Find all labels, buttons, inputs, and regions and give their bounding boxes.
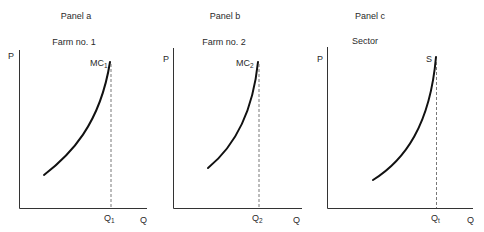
panel-a-q-label: Q1	[104, 213, 115, 224]
panel-a-title: Panel a	[61, 11, 92, 21]
panel-c-y-axis-label: P	[317, 54, 323, 64]
panel-b-q-label: Q2	[252, 213, 263, 224]
diagram-canvas: Panel a Farm no. 1 P MC1 Q1 Q Panel b Fa…	[0, 0, 484, 232]
panel-a-mc-curve	[44, 62, 110, 175]
panel-a-y-axis-label: P	[8, 51, 14, 61]
panel-c-supply-curve	[373, 57, 436, 180]
panel-b: Panel b Farm no. 2 P MC2 Q2 Q	[163, 11, 302, 225]
panel-a: Panel a Farm no. 1 P MC1 Q1 Q	[8, 11, 147, 225]
panel-c-title: Panel c	[355, 11, 386, 21]
panel-a-curve-label: MC1	[90, 58, 108, 69]
panel-b-y-axis-label: P	[163, 54, 169, 64]
panel-b-x-axis-label: Q	[293, 215, 300, 225]
panel-a-x-axis-label: Q	[140, 215, 147, 225]
panel-a-subtitle: Farm no. 1	[52, 37, 96, 47]
panel-b-subtitle: Farm no. 2	[202, 37, 246, 47]
panel-b-mc-curve	[208, 62, 258, 168]
panel-c-subtitle: Sector	[352, 36, 378, 46]
panel-c-x-axis-label: Q	[467, 215, 474, 225]
panel-c-q-label: Qt	[431, 213, 440, 224]
panel-c: Panel c Sector P S Qt Q	[317, 11, 474, 225]
panel-b-title: Panel b	[210, 11, 241, 21]
panel-b-curve-label: MC2	[236, 58, 254, 69]
panel-c-curve-label: S	[426, 54, 432, 64]
